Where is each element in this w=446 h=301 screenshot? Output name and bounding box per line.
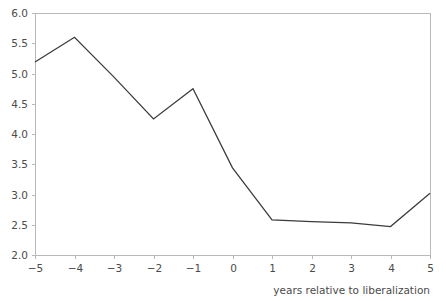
y-axis-tick-labels: 2.02.53.03.54.04.55.05.56.0 xyxy=(11,7,28,261)
x-tick-label: 3 xyxy=(348,262,355,274)
x-tick-label: 2 xyxy=(309,262,316,274)
y-tick-label: 5.5 xyxy=(11,37,28,49)
x-tick-label: 1 xyxy=(269,262,276,274)
x-tick-label: −2 xyxy=(147,262,162,274)
y-tick-label: 3.5 xyxy=(11,158,28,170)
y-tick-label: 4.5 xyxy=(11,98,28,110)
x-axis-title: years relative to liberalization xyxy=(273,284,430,296)
y-tick-label: 2.5 xyxy=(11,219,28,231)
line-chart-canvas: 2.02.53.03.54.04.55.05.56.0 −5−4−3−2−101… xyxy=(0,0,446,301)
y-tick-label: 5.0 xyxy=(11,68,28,80)
x-tick-label: −3 xyxy=(107,262,122,274)
y-tick-label: 3.0 xyxy=(11,189,28,201)
x-tick-label: 0 xyxy=(230,262,237,274)
y-tick-label: 6.0 xyxy=(11,7,28,19)
x-tick-label: 4 xyxy=(388,262,395,274)
y-tick-label: 2.0 xyxy=(11,249,28,261)
x-tick-label: −5 xyxy=(28,262,43,274)
x-tick-label: 5 xyxy=(427,262,434,274)
chart-figure: 2.02.53.03.54.04.55.05.56.0 −5−4−3−2−101… xyxy=(0,0,446,301)
x-tick-label: −1 xyxy=(186,262,201,274)
y-tick-label: 4.0 xyxy=(11,128,28,140)
x-tick-label: −4 xyxy=(68,262,84,274)
